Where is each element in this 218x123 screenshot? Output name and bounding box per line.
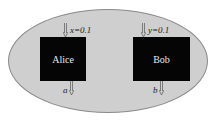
bob-output-arrow-icon xyxy=(159,81,164,95)
bob-label: Bob xyxy=(153,54,170,65)
alice-output-arrow-icon xyxy=(69,81,74,95)
bob-box: Bob xyxy=(133,37,190,81)
bob-input-arrow-icon xyxy=(141,23,146,37)
alice-input-label: x=0.1 xyxy=(70,26,91,35)
bob-input-label: y=0.1 xyxy=(148,26,169,35)
bob-output-label: b xyxy=(153,86,158,95)
alice-output-label: a xyxy=(63,86,68,95)
alice-input-arrow-icon xyxy=(63,23,68,37)
alice-box: Alice xyxy=(40,37,86,81)
alice-label: Alice xyxy=(52,54,74,65)
